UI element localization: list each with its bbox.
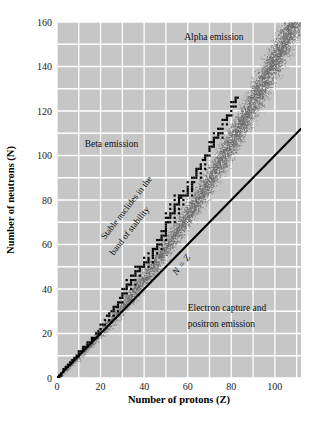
y-tick-label: 160 <box>37 17 52 28</box>
x-tick-label: 0 <box>55 381 60 392</box>
annotation-electron-capture-line1: Electron capture and <box>188 303 267 313</box>
x-axis-title: Number of protons (Z) <box>128 394 230 406</box>
y-tick-label: 80 <box>42 195 52 206</box>
x-tick-label: 40 <box>139 381 149 392</box>
annotation-alpha-emission: Alpha emission <box>184 32 244 42</box>
x-tick-label: 20 <box>96 381 106 392</box>
y-tick-label: 20 <box>42 328 52 339</box>
annotation-beta-emission: Beta emission <box>85 139 139 149</box>
x-tick-label: 80 <box>226 381 236 392</box>
y-tick-label: 140 <box>37 61 52 72</box>
y-axis-title: Number of neutrons (N) <box>5 146 17 254</box>
annotation-electron-capture-line2: positron emission <box>188 319 256 329</box>
x-tick-label: 60 <box>183 381 193 392</box>
y-tick-label: 60 <box>42 239 52 250</box>
y-tick-label: 120 <box>37 106 52 117</box>
chart-svg: 020406080100 020406080100120140160 Alpha… <box>0 0 312 428</box>
nuclide-chart-figure: 020406080100 020406080100120140160 Alpha… <box>0 0 312 428</box>
y-tick-label: 40 <box>42 284 52 295</box>
y-tick-label: 0 <box>47 373 52 384</box>
y-tick-label: 100 <box>37 150 52 161</box>
x-tick-label: 100 <box>267 381 282 392</box>
